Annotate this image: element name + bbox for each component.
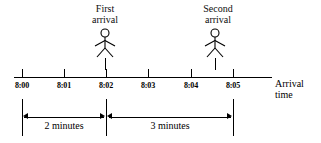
axis-title-line2: time <box>275 89 304 100</box>
first-arrival-label-line1: First <box>74 3 136 14</box>
second-interval-arrow <box>109 117 231 118</box>
axis-tick-1 <box>64 69 65 77</box>
axis-tick-2 <box>106 69 107 77</box>
first-interval-arrowhead-right <box>100 113 105 119</box>
second-arrival-person-icon <box>202 28 228 62</box>
timeline-axis <box>14 77 272 78</box>
axis-tick-3 <box>148 69 149 77</box>
axis-tick-label-2: 8:02 <box>89 81 123 90</box>
axis-title: Arrival time <box>275 78 304 100</box>
axis-title-line1: Arrival <box>275 78 304 89</box>
first-arrival-label: First arrival <box>74 3 136 25</box>
first-interval-arrowhead-left <box>23 113 28 119</box>
axis-tick-4 <box>191 69 192 77</box>
axis-tick-0 <box>22 69 23 77</box>
axis-tick-label-1: 8:01 <box>47 81 81 90</box>
second-interval-label: 3 minutes <box>109 120 231 131</box>
interval-boundary-805 <box>233 99 234 136</box>
second-interval-arrowhead-right <box>227 113 232 119</box>
second-arrival-label-line1: Second <box>182 3 254 14</box>
second-arrival-label: Second arrival <box>182 3 254 25</box>
first-arrival-person-icon <box>92 28 118 62</box>
axis-tick-label-3: 8:03 <box>131 81 165 90</box>
axis-tick-label-0: 8:00 <box>5 81 39 90</box>
second-arrival-marker-stem <box>215 58 216 70</box>
axis-tick-5 <box>233 69 234 77</box>
axis-tick-label-4: 8:04 <box>174 81 208 90</box>
second-arrival-label-line2: arrival <box>182 14 254 25</box>
first-interval-label: 2 minutes <box>24 120 104 131</box>
first-interval-arrow <box>24 117 104 118</box>
second-interval-arrowhead-left <box>107 113 112 119</box>
axis-tick-label-5: 8:05 <box>216 81 250 90</box>
arrival-timeline-diagram: First arrival Second arrival <box>0 0 321 143</box>
first-arrival-label-line2: arrival <box>74 14 136 25</box>
